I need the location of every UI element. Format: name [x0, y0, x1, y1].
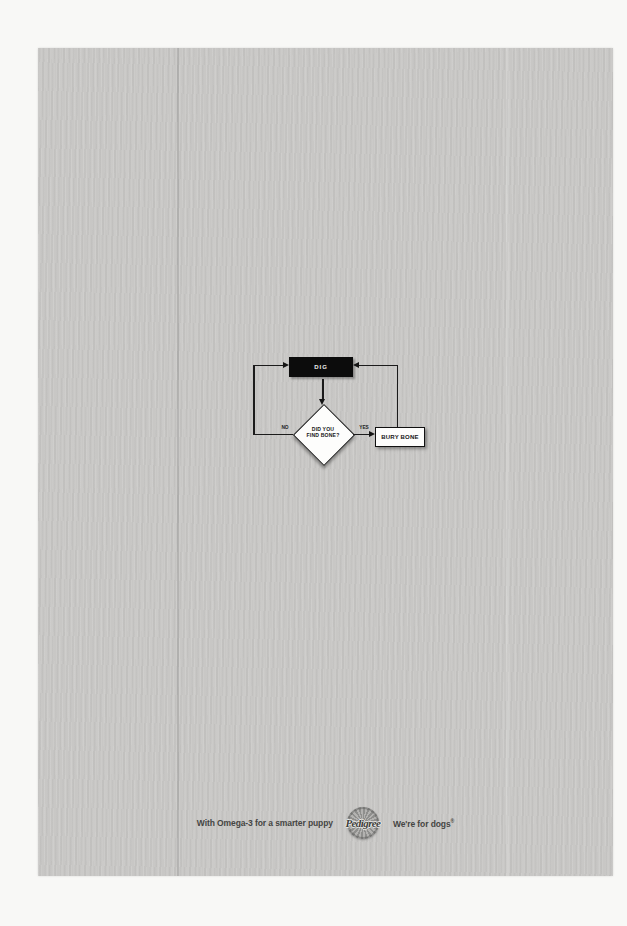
flowchart-dig-box: DIG: [289, 357, 353, 377]
footer-tagline-row: With Omega-3 for a smarter puppy Pedigre…: [38, 805, 613, 841]
connector-bury-vertical: [397, 365, 399, 427]
pedigree-rosette-logo: Pedigree: [340, 805, 386, 841]
connector-no-return: [253, 365, 283, 367]
connector-yes: [353, 434, 370, 436]
ad-panel: DIG DID YOU FIND BONE? NO YES BURY BONE: [38, 48, 613, 876]
connector-no-vertical: [253, 365, 255, 435]
brand-slogan: We're for dogs®: [393, 818, 454, 829]
connector-bury-return: [359, 365, 398, 367]
yes-branch-label: YES: [357, 425, 371, 430]
connector-no-horizontal: [253, 434, 293, 436]
pedigree-brand-wordmark: Pedigree: [340, 817, 386, 829]
omega3-tagline: With Omega-3 for a smarter puppy: [197, 818, 333, 828]
arrowhead-right-icon: [283, 362, 289, 368]
registered-mark: ®: [451, 818, 455, 824]
arrowhead-left-icon: [353, 362, 359, 368]
slogan-text: We're for dogs: [393, 818, 451, 828]
dig-box-label: DIG: [314, 364, 328, 370]
connector-dig-to-decision: [322, 379, 324, 399]
bury-box-label: BURY BONE: [381, 434, 418, 440]
no-branch-label: NO: [278, 425, 292, 430]
flowchart-bury-box: BURY BONE: [375, 427, 425, 447]
decision-label: DID YOU FIND BONE?: [298, 427, 349, 439]
decision-label-line2: FIND BONE?: [298, 433, 349, 439]
flowchart: DIG DID YOU FIND BONE? NO YES BURY BONE: [38, 48, 613, 876]
